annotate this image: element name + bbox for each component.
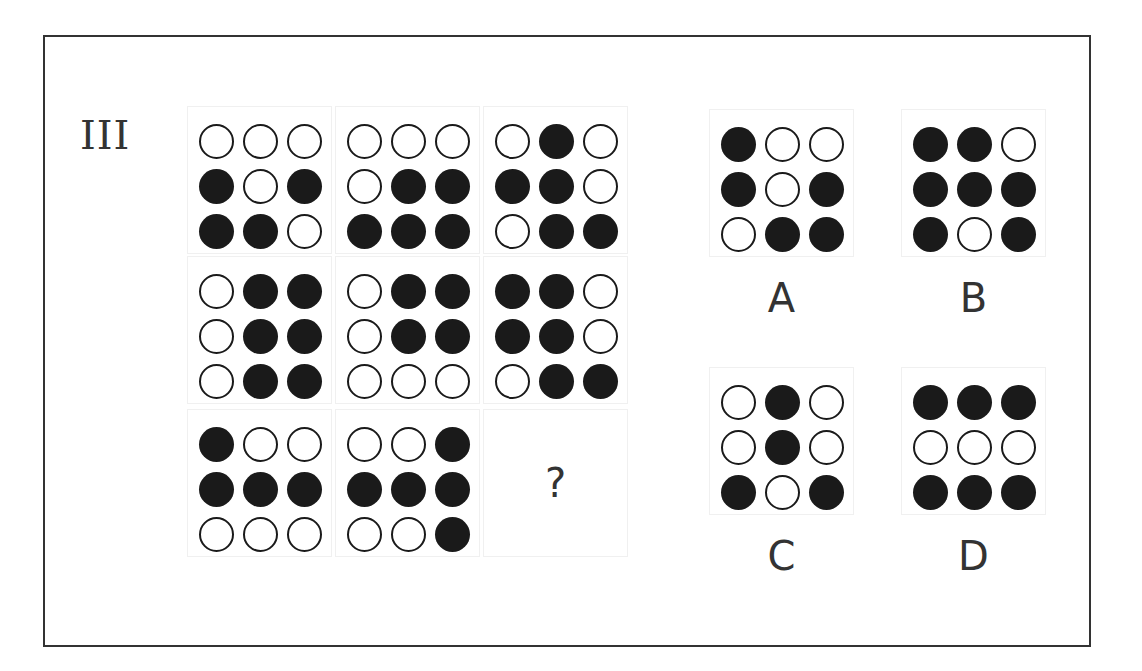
empty-circle-icon — [495, 124, 530, 159]
empty-circle-icon — [957, 217, 992, 252]
empty-circle-icon — [957, 430, 992, 465]
matrix-cell — [336, 257, 479, 403]
empty-circle-icon — [1001, 127, 1036, 162]
dot-grid — [347, 124, 470, 249]
filled-circle-icon — [243, 214, 278, 249]
filled-circle-icon — [583, 364, 618, 399]
filled-circle-icon — [243, 472, 278, 507]
option-label-d[interactable]: D — [902, 533, 1045, 579]
filled-circle-icon — [721, 172, 756, 207]
empty-circle-icon — [199, 517, 234, 552]
option-label-a[interactable]: A — [710, 275, 853, 321]
filled-circle-icon — [539, 319, 574, 354]
filled-circle-icon — [721, 475, 756, 510]
matrix-cell — [188, 107, 331, 253]
option-label-c[interactable]: C — [710, 533, 853, 579]
filled-circle-icon — [957, 385, 992, 420]
puzzle-number: III — [80, 112, 130, 158]
empty-circle-icon — [809, 127, 844, 162]
filled-circle-icon — [539, 169, 574, 204]
filled-circle-icon — [391, 274, 426, 309]
dot-grid — [913, 385, 1036, 510]
filled-circle-icon — [809, 172, 844, 207]
filled-circle-icon — [199, 472, 234, 507]
empty-circle-icon — [1001, 430, 1036, 465]
empty-circle-icon — [583, 169, 618, 204]
filled-circle-icon — [243, 274, 278, 309]
filled-circle-icon — [809, 475, 844, 510]
matrix-cell — [484, 257, 627, 403]
empty-circle-icon — [347, 274, 382, 309]
empty-circle-icon — [199, 274, 234, 309]
empty-circle-icon — [721, 217, 756, 252]
empty-circle-icon — [347, 169, 382, 204]
filled-circle-icon — [1001, 172, 1036, 207]
empty-circle-icon — [199, 124, 234, 159]
filled-circle-icon — [347, 214, 382, 249]
empty-circle-icon — [243, 517, 278, 552]
empty-circle-icon — [495, 364, 530, 399]
empty-circle-icon — [583, 319, 618, 354]
filled-circle-icon — [539, 364, 574, 399]
empty-circle-icon — [721, 430, 756, 465]
filled-circle-icon — [199, 427, 234, 462]
question-mark: ? — [484, 410, 627, 556]
filled-circle-icon — [765, 217, 800, 252]
dot-grid — [495, 124, 618, 249]
filled-circle-icon — [495, 274, 530, 309]
empty-circle-icon — [435, 124, 470, 159]
dot-grid — [721, 127, 844, 252]
filled-circle-icon — [243, 319, 278, 354]
filled-circle-icon — [1001, 217, 1036, 252]
empty-circle-icon — [391, 364, 426, 399]
filled-circle-icon — [765, 385, 800, 420]
dot-grid — [495, 274, 618, 399]
empty-circle-icon — [287, 517, 322, 552]
filled-circle-icon — [913, 385, 948, 420]
empty-circle-icon — [391, 124, 426, 159]
option-a[interactable] — [710, 110, 853, 256]
matrix-cell — [336, 107, 479, 253]
empty-circle-icon — [347, 319, 382, 354]
empty-circle-icon — [243, 427, 278, 462]
dot-grid — [199, 274, 322, 399]
option-b[interactable] — [902, 110, 1045, 256]
empty-circle-icon — [347, 427, 382, 462]
filled-circle-icon — [435, 274, 470, 309]
filled-circle-icon — [957, 475, 992, 510]
filled-circle-icon — [957, 127, 992, 162]
empty-circle-icon — [809, 430, 844, 465]
dot-grid — [721, 385, 844, 510]
filled-circle-icon — [721, 127, 756, 162]
empty-circle-icon — [435, 364, 470, 399]
empty-circle-icon — [583, 124, 618, 159]
matrix-cell — [188, 410, 331, 556]
filled-circle-icon — [1001, 475, 1036, 510]
filled-circle-icon — [539, 274, 574, 309]
filled-circle-icon — [199, 214, 234, 249]
filled-circle-icon — [287, 169, 322, 204]
filled-circle-icon — [435, 319, 470, 354]
empty-circle-icon — [495, 214, 530, 249]
filled-circle-icon — [913, 475, 948, 510]
empty-circle-icon — [347, 124, 382, 159]
empty-circle-icon — [765, 475, 800, 510]
option-c[interactable] — [710, 368, 853, 514]
filled-circle-icon — [391, 319, 426, 354]
option-d[interactable] — [902, 368, 1045, 514]
filled-circle-icon — [347, 472, 382, 507]
filled-circle-icon — [913, 127, 948, 162]
filled-circle-icon — [287, 319, 322, 354]
filled-circle-icon — [391, 214, 426, 249]
filled-circle-icon — [435, 472, 470, 507]
filled-circle-icon — [435, 214, 470, 249]
filled-circle-icon — [391, 472, 426, 507]
filled-circle-icon — [539, 214, 574, 249]
filled-circle-icon — [583, 214, 618, 249]
filled-circle-icon — [287, 472, 322, 507]
filled-circle-icon — [1001, 385, 1036, 420]
empty-circle-icon — [243, 124, 278, 159]
filled-circle-icon — [809, 217, 844, 252]
option-label-b[interactable]: B — [902, 275, 1045, 321]
missing-cell: ? — [484, 410, 627, 556]
